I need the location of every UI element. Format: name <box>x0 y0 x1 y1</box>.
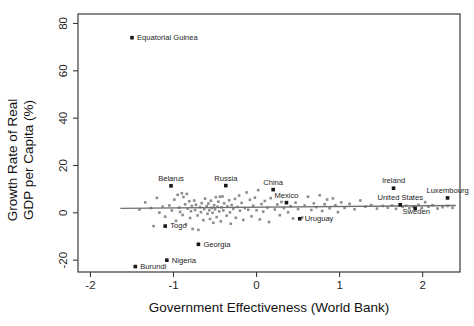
scatter-point <box>144 201 147 204</box>
scatter-point <box>188 200 191 203</box>
x-axis-title: Government Effectiveness (World Bank) <box>149 300 389 315</box>
scatter-point <box>158 211 161 214</box>
scatter-point <box>208 209 211 212</box>
x-axis-ticks: -2-1012 <box>85 272 425 291</box>
scatter-point <box>234 198 237 201</box>
scatter-point <box>202 219 205 222</box>
x-tick-label: 1 <box>336 279 342 291</box>
scatter-point <box>194 209 197 212</box>
scatter-point <box>238 194 241 197</box>
scatter-point <box>156 197 159 200</box>
y-axis-title-line2: GDP per Capita (%) <box>21 100 36 220</box>
scatter-point <box>250 215 253 218</box>
scatter-point <box>200 211 203 214</box>
scatter-point <box>276 203 279 206</box>
scatter-point <box>168 204 171 207</box>
y-axis-title: Growth Rate of Real GDP per Capita (%) <box>5 99 36 221</box>
point-label: China <box>263 178 284 187</box>
point-label: Russia <box>214 174 238 183</box>
scatter-point <box>207 202 210 205</box>
scatter-point <box>221 195 224 198</box>
scatter-point <box>223 202 226 205</box>
scatter-point <box>220 220 223 223</box>
scatter-point <box>222 209 225 212</box>
scatter-point <box>190 205 193 208</box>
scatter-point <box>225 214 228 217</box>
scatter-point <box>268 221 271 224</box>
scatter-point <box>230 222 233 225</box>
point-label: Uruguay <box>305 214 334 223</box>
scatter-point <box>424 201 427 204</box>
scatter-point <box>307 195 310 198</box>
scatter-point <box>184 203 187 206</box>
scatter-point <box>254 196 257 199</box>
scatter-point <box>348 203 351 206</box>
scatter-point <box>152 225 155 228</box>
point-label: Ireland <box>382 176 405 185</box>
x-tick-label: 2 <box>419 279 425 291</box>
scatter-point <box>196 214 199 217</box>
highlighted-point <box>163 224 167 228</box>
y-tick-label: 0 <box>57 210 69 216</box>
highlighted-point <box>298 217 302 221</box>
scatter-point <box>376 207 379 210</box>
scatter-point <box>228 199 231 202</box>
x-tick-label: 0 <box>253 279 259 291</box>
point-label: Equatorial Guinea <box>137 33 199 42</box>
scatter-point <box>247 208 250 211</box>
scatter-point <box>323 203 326 206</box>
scatter-point <box>218 210 221 213</box>
y-tick-label: 60 <box>57 64 69 77</box>
highlighted-points-layer: Equatorial GuineaBelarusRussiaChinaMexic… <box>130 33 468 271</box>
y-axis-ticks: -20020406080 <box>57 17 78 268</box>
scatter-point <box>436 207 439 210</box>
scatter-point <box>193 199 196 202</box>
scatter-point <box>190 210 193 213</box>
highlighted-point <box>224 184 228 188</box>
point-label: Sweden <box>402 207 429 216</box>
scatter-point <box>240 202 243 205</box>
highlighted-point <box>130 36 134 40</box>
scatter-point <box>287 211 290 214</box>
point-label: Togo <box>170 221 186 230</box>
scatter-point <box>164 215 167 218</box>
scatter-chart-figure: Growth Rate of Real GDP per Capita (%) -… <box>0 0 474 326</box>
scatter-point <box>340 201 343 204</box>
highlighted-point <box>285 201 289 205</box>
point-label: Mexico <box>274 191 298 200</box>
scatter-point <box>229 211 232 214</box>
scatter-point <box>269 197 272 200</box>
highlighted-point <box>197 243 201 247</box>
highlighted-point <box>446 196 450 200</box>
scatter-point <box>181 192 184 195</box>
scatter-point <box>262 210 265 213</box>
y-tick-label: 80 <box>57 17 69 30</box>
scatter-point <box>280 201 283 204</box>
scatter-point <box>206 212 209 215</box>
scatter-point <box>217 200 220 203</box>
scatter-point <box>313 202 316 205</box>
scatter-point <box>249 199 252 202</box>
scatter-point <box>176 194 179 197</box>
scatter-point <box>294 201 297 204</box>
scatter-point <box>191 228 194 231</box>
scatter-point <box>255 209 258 212</box>
plot-canvas: Growth Rate of Real GDP per Capita (%) -… <box>0 0 474 326</box>
highlighted-point <box>134 265 138 269</box>
scatter-point <box>219 195 222 198</box>
scatter-point <box>245 191 248 194</box>
scatter-point <box>321 210 324 213</box>
scatter-point <box>260 203 263 206</box>
scatter-point <box>197 229 200 232</box>
scatter-point <box>328 207 331 210</box>
scatter-point <box>239 209 242 212</box>
scatter-point <box>292 217 295 220</box>
scatter-point <box>215 196 218 199</box>
scatter-point <box>230 204 233 207</box>
scatter-point <box>451 207 454 210</box>
scatter-point <box>189 217 192 220</box>
point-label: Burundi <box>140 262 166 271</box>
scatter-point <box>234 216 237 219</box>
scatter-point <box>195 203 198 206</box>
scatter-point <box>204 197 207 200</box>
